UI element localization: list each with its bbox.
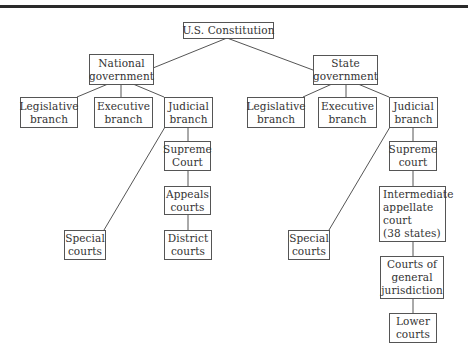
edge-constitution-national	[153, 38, 227, 68]
node-label: court	[383, 214, 412, 227]
node-label: (38 states)	[383, 227, 441, 240]
node-label: Special	[65, 232, 105, 245]
node-label: branch	[394, 113, 432, 126]
node-label: Court	[172, 156, 203, 169]
node-label: courts	[292, 245, 326, 258]
node-label: Intermediate	[383, 188, 454, 201]
node-label: Appeals	[166, 188, 209, 201]
node-national-appeals-courts: Appeals courts	[164, 186, 211, 215]
node-label: Executive	[321, 100, 374, 113]
node-state-special-courts: Special courts	[288, 230, 330, 260]
node-state-lower-courts: Lower courts	[389, 313, 437, 343]
edge-national-legislative	[77, 84, 108, 97]
node-label: Legislative	[246, 100, 305, 113]
node-label: courts	[170, 201, 204, 214]
node-state-legislative-branch: Legislative branch	[247, 97, 305, 128]
node-label: Special	[289, 232, 329, 245]
node-label: government	[89, 70, 154, 83]
node-label: branch	[257, 113, 295, 126]
edge-constitution-state	[227, 38, 313, 70]
node-state-intermediate-appellate-court: Intermediate appellate court (38 states)	[379, 186, 446, 242]
node-label: courts	[171, 245, 205, 258]
node-state-courts-of-general-jurisdiction: Courts of general jurisdiction	[380, 256, 444, 299]
node-national-judicial-branch: Judicial branch	[164, 97, 213, 128]
node-label: District	[168, 232, 209, 245]
node-state-supreme-court: Supreme court	[389, 141, 437, 171]
node-label: Judicial	[168, 100, 209, 113]
node-label: branch	[328, 113, 366, 126]
node-national-special-courts: Special courts	[64, 230, 106, 260]
node-label: jurisdiction	[381, 284, 443, 297]
node-label: Courts of	[387, 258, 437, 271]
node-state-judicial-branch: Judicial branch	[389, 97, 438, 128]
node-label: branch	[30, 113, 68, 126]
node-label: Supreme	[163, 143, 212, 156]
node-label: courts	[68, 245, 102, 258]
node-label: courts	[396, 328, 430, 341]
node-national-district-courts: District courts	[164, 230, 212, 260]
edge-state-judicial	[358, 84, 389, 97]
node-label: Judicial	[393, 100, 434, 113]
edge-national-judicial	[133, 84, 164, 97]
node-label: general	[391, 271, 432, 284]
node-national-executive-branch: Executive branch	[94, 97, 153, 128]
node-us-constitution: U.S. Constitution	[183, 22, 274, 39]
node-label: Legislative	[19, 100, 78, 113]
node-label: Supreme	[389, 143, 438, 156]
node-label: Lower	[396, 315, 430, 328]
edge-nat-judicial-special	[104, 127, 165, 230]
node-label: State	[331, 57, 360, 70]
edge-state-legislative	[303, 84, 332, 97]
node-label: Executive	[97, 100, 150, 113]
node-state-government: State government	[313, 55, 378, 85]
node-label: appellate	[383, 201, 433, 214]
node-label: branch	[104, 113, 142, 126]
node-national-legislative-branch: Legislative branch	[20, 97, 78, 128]
node-national-supreme-court: Supreme Court	[164, 141, 211, 171]
connector-lines	[0, 0, 468, 359]
node-label: National	[98, 57, 145, 70]
node-label: branch	[169, 113, 207, 126]
node-national-government: National government	[89, 54, 154, 85]
node-label: government	[313, 70, 378, 83]
node-label: U.S. Constitution	[182, 24, 274, 37]
node-label: court	[399, 156, 428, 169]
node-state-executive-branch: Executive branch	[318, 97, 377, 128]
